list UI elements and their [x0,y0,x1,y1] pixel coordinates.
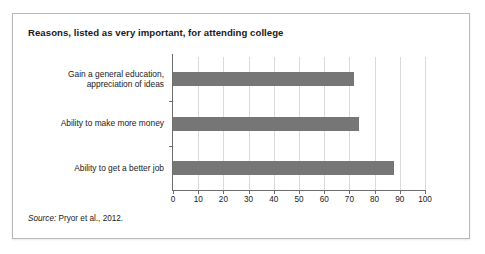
source-citation: Pryor et al., 2012. [56,214,123,223]
x-tick-label-20: 20 [219,195,228,204]
x-tick-label-90: 90 [395,195,404,204]
x-tick-label-0: 0 [171,195,176,204]
category-label-2: Ability to get a better job [14,163,164,174]
x-tick-label-80: 80 [370,195,379,204]
x-tick-label-100: 100 [418,195,432,204]
category-label-1: Ability to make more money [14,118,164,129]
x-tick-10 [198,190,199,194]
x-tick-label-70: 70 [345,195,354,204]
x-tick-label-50: 50 [294,195,303,204]
x-tick-label-10: 10 [194,195,203,204]
x-tick-80 [375,190,376,194]
gridline-90 [400,57,401,190]
x-tick-50 [299,190,300,194]
chart-plot-area: Gain a general education, appreciation o… [173,57,425,190]
bar-0 [173,72,354,86]
figure-frame: Reasons, listed as very important, for a… [12,13,470,239]
x-tick-60 [324,190,325,194]
x-tick-100 [425,190,426,194]
x-tick-40 [274,190,275,194]
x-tick-label-60: 60 [320,195,329,204]
x-tick-70 [349,190,350,194]
x-tick-0 [173,190,174,194]
source-label: Source: [28,214,56,223]
bar-2 [173,161,394,175]
chart-title: Reasons, listed as very important, for a… [28,27,284,38]
x-tick-label-30: 30 [244,195,253,204]
x-tick-90 [400,190,401,194]
y-tick-1 [169,101,173,102]
x-tick-30 [249,190,250,194]
x-tick-20 [223,190,224,194]
y-tick-2 [169,146,173,147]
gridline-100 [425,57,426,190]
source-note: Source: Pryor et al., 2012. [28,214,123,223]
x-tick-label-40: 40 [269,195,278,204]
bar-1 [173,117,359,131]
category-label-0: Gain a general education, appreciation o… [14,69,164,90]
